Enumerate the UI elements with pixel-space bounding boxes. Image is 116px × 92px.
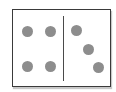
pip-left-3	[22, 61, 33, 72]
domino-stage	[0, 0, 116, 92]
pip-right-3	[93, 62, 104, 73]
domino-tile[interactable]	[12, 9, 111, 87]
pip-left-4	[45, 61, 56, 72]
domino-divider	[63, 16, 64, 81]
pip-right-1	[71, 25, 82, 36]
pip-right-2	[83, 44, 94, 55]
pip-left-1	[22, 26, 33, 37]
pip-left-2	[45, 26, 56, 37]
